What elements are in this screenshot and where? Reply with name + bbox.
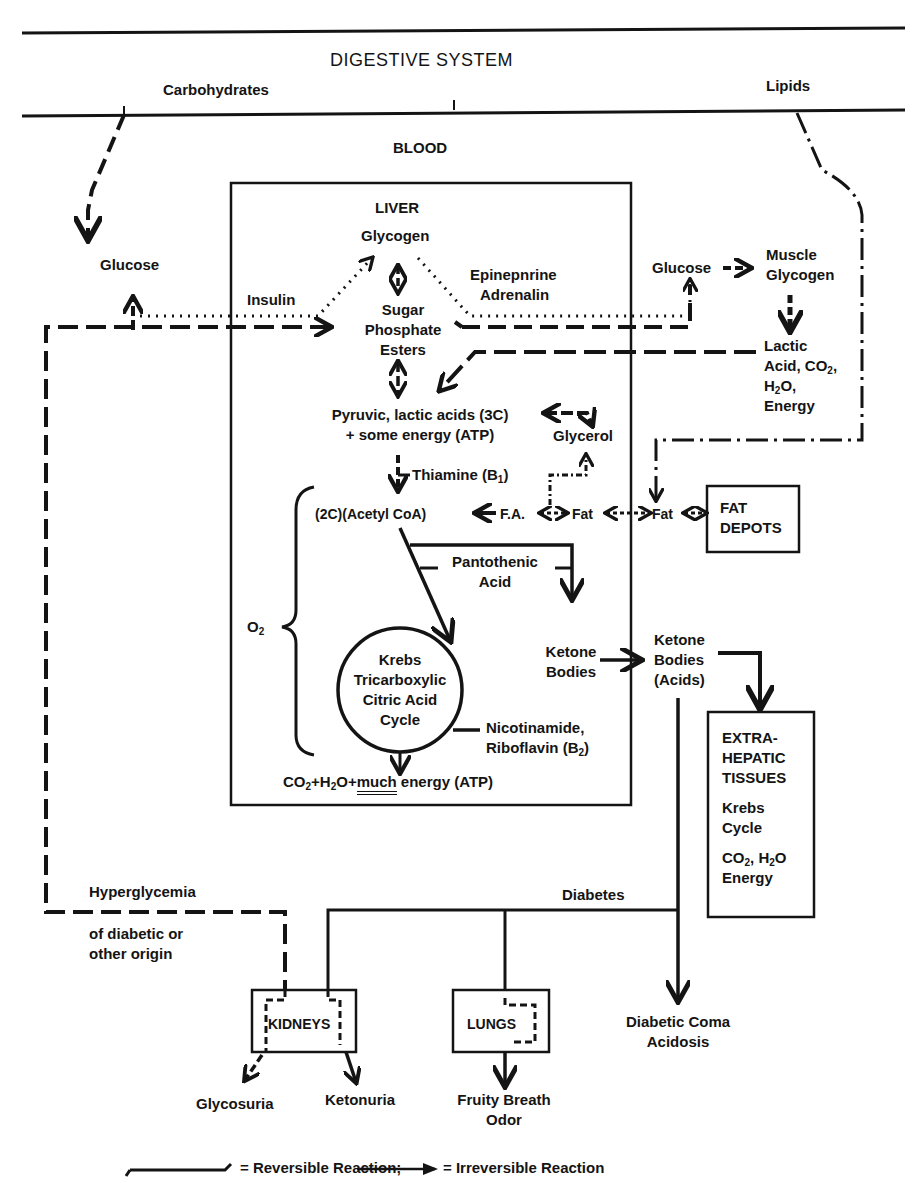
- adrenalin-label: Adrenalin: [480, 285, 549, 305]
- sugar-phosphate-esters-label: Sugar Phosphate Esters: [355, 300, 451, 360]
- oxygen-sub: 2: [259, 626, 265, 637]
- spacer: [722, 788, 786, 798]
- muscle-glucose-label: Glucose: [652, 258, 711, 278]
- muscle-glycogen-line: Glycogen: [766, 265, 834, 285]
- bodies-line: Bodies: [654, 650, 705, 670]
- fruity-breath-label: Fruity Breath Odor: [444, 1090, 564, 1130]
- lactic-line1: Lactic: [764, 336, 837, 356]
- fruity-line2: Odor: [444, 1110, 564, 1130]
- origin-line2: other origin: [89, 944, 183, 964]
- lactic-line4: Energy: [764, 396, 837, 416]
- o-text: O: [775, 849, 787, 866]
- glycerol-label: Glycerol: [553, 426, 613, 446]
- ketone-acids-label: Ketone Bodies (Acids): [654, 630, 705, 690]
- digestive-top-line: [22, 28, 905, 33]
- lactic-line3: H2O,: [764, 376, 837, 396]
- cycle-line: Cycle: [722, 818, 786, 838]
- energy-line: Energy: [722, 868, 786, 888]
- fatty-acid-label: F.A.: [500, 504, 525, 524]
- thiamine-label: Thiamine (B1): [412, 465, 508, 485]
- o-plus-text: O+: [336, 773, 356, 790]
- lipids-label: Lipids: [766, 76, 810, 96]
- pyruvic-acids-label: Pyruvic, lactic acids (3C) + some energy…: [300, 405, 540, 445]
- diabetic-coma-label: Diabetic Coma Acidosis: [608, 1012, 748, 1052]
- liver-ketone-bodies-label: Ketone Bodies: [535, 642, 607, 682]
- carbohydrate-absorption-line: [88, 115, 124, 238]
- thiamine-text: Thiamine (B: [412, 466, 498, 483]
- krebs-line3: Citric Acid: [340, 690, 460, 710]
- lipid-absorption-line: [656, 113, 862, 500]
- energy-atp-text: energy (ATP): [397, 773, 493, 790]
- riboflavin-label: Riboflavin (B2): [486, 738, 589, 758]
- krebs-line1: Krebs: [340, 650, 460, 670]
- extrahepatic-label: EXTRA- HEPATIC TISSUES Krebs Cycle CO2, …: [722, 728, 786, 888]
- phosphate-line: Phosphate: [355, 320, 451, 340]
- co-text: CO: [283, 773, 306, 790]
- legend-reversible-label: = Reversible Reaction;: [240, 1158, 401, 1178]
- lactic-line2: Acid, CO2,: [764, 356, 837, 376]
- co-text: CO: [722, 849, 745, 866]
- origin-line1: of diabetic or: [89, 924, 183, 944]
- ketone-line: Ketone: [654, 630, 705, 650]
- liver-fat-label: Fat: [572, 504, 593, 524]
- pantothenic-acid-label: Pantothenic Acid: [440, 552, 550, 592]
- lactic-acid-label: Lactic Acid, CO2, H2O, Energy: [764, 336, 837, 416]
- oxygen-text: O: [247, 618, 259, 635]
- hepatic-line: HEPATIC: [722, 748, 786, 768]
- cori-cycle-line: [440, 352, 756, 390]
- extra-line: EXTRA-: [722, 728, 786, 748]
- sugar-line: Sugar: [355, 300, 451, 320]
- esters-line: Esters: [355, 340, 451, 360]
- ketone-line: Ketone: [535, 642, 607, 662]
- acids-line: (Acids): [654, 670, 705, 690]
- krebs-line4: Cycle: [340, 710, 460, 730]
- plus-h-text: +H: [311, 773, 331, 790]
- legend-reversible-arrow: [130, 1164, 231, 1170]
- epinephrine-label: Epinepnrine: [470, 265, 557, 285]
- much-text: much: [357, 773, 397, 795]
- lungs-label: LUNGS: [467, 1014, 516, 1034]
- extrahepatic-products-line: CO2, H2O: [722, 848, 786, 868]
- liver-title: LIVER: [375, 198, 419, 218]
- muscle-line: Muscle: [766, 245, 834, 265]
- muscle-glycogen-label: Muscle Glycogen: [766, 245, 834, 285]
- oxygen-label: O2: [247, 617, 264, 637]
- krebs-line2: Tricarboxylic: [340, 670, 460, 690]
- krebs-products-label: CO2+H2O+much energy (ATP): [283, 772, 493, 792]
- digestive-system-title: DIGESTIVE SYSTEM: [330, 50, 513, 70]
- digestive-bottom-line: [22, 110, 905, 116]
- riboflavin-close: ): [584, 739, 589, 756]
- depots-line: DEPOTS: [720, 518, 782, 538]
- acid-line: Acid: [440, 572, 550, 592]
- diabetes-label: Diabetes: [562, 885, 625, 905]
- blood-label: BLOOD: [393, 138, 447, 158]
- ketonuria-label: Ketonuria: [325, 1090, 395, 1110]
- pyruvic-line2: + some energy (ATP): [300, 425, 540, 445]
- krebs-line: Krebs: [722, 798, 786, 818]
- spacer: [722, 838, 786, 848]
- fat-line: FAT: [720, 498, 782, 518]
- kidneys-label: KIDNEYS: [268, 1014, 330, 1034]
- blood-glucose-label: Glucose: [100, 255, 159, 275]
- tissues-line: TISSUES: [722, 768, 786, 788]
- acid-co-text: Acid, CO: [764, 357, 827, 374]
- oxygen-brace: [282, 487, 314, 755]
- bodies-line: Bodies: [535, 662, 607, 682]
- glycosuria-label: Glycosuria: [196, 1094, 274, 1114]
- legend-irreversible-label: = Irreversible Reaction: [443, 1158, 604, 1178]
- h-text: , H: [750, 849, 769, 866]
- fruity-line1: Fruity Breath: [444, 1090, 564, 1110]
- thiamine-close: ): [503, 466, 508, 483]
- nicotinamide-label: Nicotinamide,: [486, 718, 584, 738]
- hyperglycemia-origin-label: of diabetic or other origin: [89, 924, 183, 964]
- coma-line2: Acidosis: [608, 1032, 748, 1052]
- riboflavin-text: Riboflavin (B: [486, 739, 579, 756]
- krebs-cycle-label: Krebs Tricarboxylic Citric Acid Cycle: [340, 650, 460, 730]
- carbohydrates-label: Carbohydrates: [163, 80, 269, 100]
- insulin-label: Insulin: [247, 290, 295, 310]
- pantothenic-line: Pantothenic: [440, 552, 550, 572]
- blood-fat-label: Fat: [652, 504, 673, 524]
- comma: ,: [833, 357, 837, 374]
- pyruvic-line1: Pyruvic, lactic acids (3C): [300, 405, 540, 425]
- hyperglycemia-label: Hyperglycemia: [89, 882, 196, 902]
